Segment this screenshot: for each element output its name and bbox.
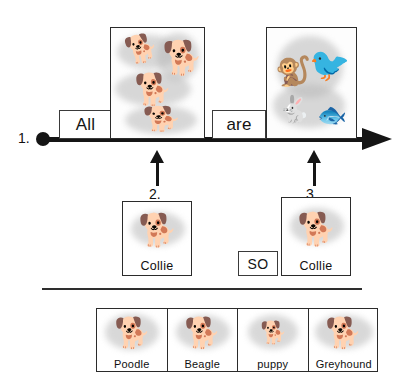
- breed-strip: 🐕 Poodle 🐕 Beagle 🐕 puppy 🐕 Greyhound: [96, 308, 378, 372]
- animals-scene: 🐒 🐦 🐇 🐟: [267, 28, 356, 138]
- greyhound-art: 🐕: [309, 310, 380, 354]
- collie-art: 🐕: [282, 198, 350, 255]
- term-card-collie-premise[interactable]: 🐕 Collie: [122, 201, 192, 276]
- hound-standing-icon: 🐕: [117, 72, 189, 106]
- greyhound-icon: 🐕: [314, 314, 374, 352]
- breed-cell-caption: Poodle: [97, 358, 167, 370]
- word-box-all[interactable]: All: [59, 110, 112, 139]
- breed-cell-beagle[interactable]: 🐕 Beagle: [168, 309, 239, 371]
- breed-cell-poodle[interactable]: 🐕 Poodle: [97, 309, 168, 371]
- beagle-art: 🐕: [168, 310, 238, 354]
- premise-panel-dogs[interactable]: 🐕 🐕 🐕 🐕: [110, 27, 205, 139]
- callout-number-2: 2.: [149, 186, 161, 202]
- axis-start-dot: [36, 132, 50, 146]
- dogs-scene: 🐕 🐕 🐕 🐕: [111, 28, 204, 138]
- beagle-icon: 🐕: [175, 314, 231, 352]
- fish-icon: 🐟: [311, 100, 353, 130]
- term-card-collie-conclusion[interactable]: 🐕 Collie: [281, 197, 351, 276]
- puppy-icon: 🐕: [256, 318, 290, 348]
- term-card-caption: Collie: [123, 259, 191, 273]
- term-card-caption: Collie: [282, 259, 350, 273]
- callout-arrow-2: 2.: [150, 150, 166, 204]
- figure-canvas: 1. All are 🐕 🐕 🐕 🐕 🐒 🐦 🐇 🐟: [0, 0, 406, 382]
- axis-step-number: 1.: [18, 130, 30, 146]
- poodle-icon: 🐕: [104, 313, 160, 353]
- breed-cell-caption: puppy: [238, 358, 308, 370]
- stork-icon: 🐦: [307, 36, 351, 92]
- arrow-shaft: [313, 160, 316, 186]
- breed-cell-caption: Beagle: [168, 358, 238, 370]
- callout-arrow-3: 3.: [307, 150, 323, 204]
- arrow-shaft: [156, 160, 159, 186]
- poodle-art: 🐕: [97, 310, 167, 354]
- rabbit-icon: 🐇: [273, 92, 315, 126]
- breed-cell-caption: Greyhound: [309, 358, 380, 370]
- connector-box-so[interactable]: SO: [238, 251, 278, 276]
- word-box-are[interactable]: are: [212, 110, 266, 139]
- collie-art: 🐕: [123, 202, 191, 255]
- puppy-art: 🐕: [238, 310, 308, 354]
- dachshund-icon: 🐕: [117, 106, 204, 132]
- monkey-icon: 🐒: [275, 50, 311, 92]
- collie-dog-icon: 🐕: [288, 208, 346, 250]
- collie-dog-icon: 🐕: [129, 210, 187, 250]
- axis-arrowhead-icon: [362, 128, 392, 150]
- conclusion-panel-animals[interactable]: 🐒 🐦 🐇 🐟: [266, 27, 357, 139]
- section-divider: [42, 288, 362, 290]
- breed-cell-puppy[interactable]: 🐕 puppy: [238, 309, 309, 371]
- breed-cell-greyhound[interactable]: 🐕 Greyhound: [309, 309, 380, 371]
